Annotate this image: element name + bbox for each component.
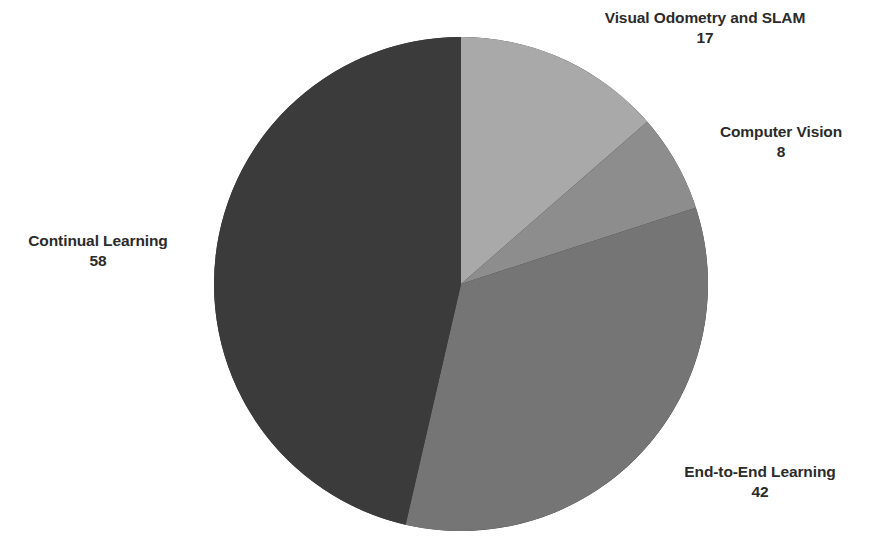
- pie-chart: Visual Odometry and SLAM 17 Computer Vis…: [0, 0, 869, 542]
- pie-slice-group: [214, 37, 708, 531]
- slice-label-text: Continual Learning: [28, 232, 167, 249]
- pie-slice-label-visual-odometry-and-slam: Visual Odometry and SLAM 17: [540, 8, 869, 49]
- slice-label-text: End-to-End Learning: [684, 463, 835, 480]
- slice-label-value: 8: [693, 142, 869, 162]
- pie-slice-label-computer-vision: Computer Vision 8: [693, 122, 869, 163]
- slice-label-value: 17: [540, 28, 869, 48]
- slice-label-value: 42: [651, 482, 869, 502]
- pie-slice-label-continual-learning: Continual Learning 58: [0, 231, 196, 272]
- slice-label-text: Computer Vision: [720, 123, 842, 140]
- slice-label-text: Visual Odometry and SLAM: [605, 9, 806, 26]
- pie-slice-label-end-to-end-learning: End-to-End Learning 42: [651, 462, 869, 503]
- slice-label-value: 58: [0, 251, 196, 271]
